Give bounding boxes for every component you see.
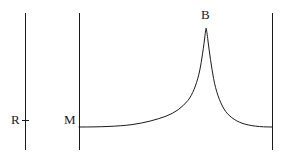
vertical-lines-group bbox=[22, 13, 273, 150]
resonance-curve-figure: R M B bbox=[0, 0, 288, 156]
label-baseline-m: M bbox=[64, 113, 76, 126]
resonance-curve-group bbox=[79, 28, 272, 127]
plot-canvas bbox=[0, 0, 288, 156]
label-peak-b: B bbox=[201, 8, 210, 21]
label-reference-r: R bbox=[11, 113, 20, 126]
resonance-curve bbox=[79, 28, 272, 127]
